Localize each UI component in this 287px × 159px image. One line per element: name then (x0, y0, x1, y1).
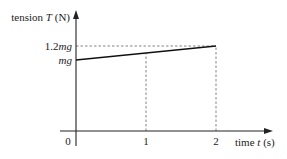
guide-lines (76, 46, 216, 131)
y-tick-label-1.2: 1.2mg (45, 40, 73, 52)
x-axis-arrow-icon (264, 128, 273, 134)
y-tick-num: 1.2 (45, 40, 59, 52)
x-tick-label-0: 0 (65, 135, 71, 147)
x-label-post: (s) (260, 136, 275, 149)
y-axis-label: tension T (N) (11, 11, 70, 24)
y-axis-arrow-icon (73, 10, 79, 19)
y-label-post: (N) (52, 11, 70, 24)
x-tick-label-2: 2 (213, 135, 219, 147)
y-tick-var: mg (59, 54, 73, 66)
x-label-pre: time (235, 136, 257, 148)
x-axis-label: time t (s) (235, 136, 275, 149)
axes (60, 10, 273, 146)
y-label-pre: tension (11, 11, 46, 23)
y-tick-label-1: mg (59, 54, 73, 66)
y-tick-var: mg (59, 40, 73, 52)
tension-time-chart: 012mg1.2mg tension T (N) time t (s) (0, 0, 287, 159)
x-tick-label-1: 1 (143, 135, 149, 147)
